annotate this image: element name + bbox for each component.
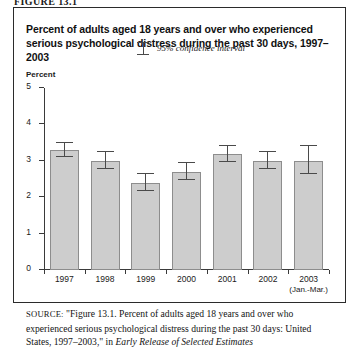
- error-bar-line: [267, 152, 268, 168]
- source-line-1: "Figure 13.1. Percent of adults aged 18 …: [66, 308, 293, 319]
- error-bar-cap-lower: [137, 190, 154, 191]
- error-bar-cap-lower: [300, 173, 317, 174]
- error-bar-cap-upper: [219, 145, 236, 146]
- error-bar-cap-lower: [219, 161, 236, 162]
- y-axis-tick-label: 5: [26, 81, 31, 91]
- bar: [172, 172, 201, 270]
- bar-group: [131, 88, 160, 270]
- bar: [50, 150, 79, 270]
- figure-frame: Percent of adults aged 18 years and over…: [13, 7, 346, 303]
- error-bar-cap-upper: [259, 151, 276, 152]
- bar: [213, 154, 242, 270]
- y-axis-tick-label: 4: [26, 117, 31, 127]
- error-bar-cap-upper: [97, 151, 114, 152]
- source-note: SOURCE: "Figure 13.1. Percent of adults …: [26, 307, 338, 349]
- bar: [253, 161, 282, 270]
- error-bar-line: [105, 152, 106, 168]
- error-bar-cap-upper: [137, 173, 154, 174]
- bar: [294, 161, 323, 270]
- bars-layer: [44, 88, 329, 270]
- error-bar-line: [186, 163, 187, 179]
- y-axis-tick-label: 1: [26, 227, 31, 237]
- bar: [91, 161, 120, 270]
- bar-group: [91, 88, 120, 270]
- bar: [131, 183, 160, 270]
- plot-area: 012345: [44, 88, 329, 270]
- error-bar-symbol-icon: [136, 41, 150, 55]
- error-bar-cap-lower: [56, 156, 73, 157]
- source-line-2: experienced serious psychological distre…: [26, 323, 283, 334]
- x-axis-tick: [329, 270, 330, 274]
- bar-group: [253, 88, 282, 270]
- y-axis-unit-label: Percent: [26, 70, 55, 79]
- x-axis-label: 2003(Jan.-Mar.): [288, 274, 329, 294]
- source-label: SOURCE:: [26, 309, 64, 319]
- legend: 95% confidence interval: [136, 41, 245, 55]
- bar-group: [213, 88, 242, 270]
- error-bar-cap-lower: [97, 168, 114, 169]
- error-bar-cap-lower: [178, 179, 195, 180]
- y-axis-tick-label: 2: [26, 190, 31, 200]
- bar-group: [294, 88, 323, 270]
- error-bar-cap-upper: [56, 142, 73, 143]
- error-bar-cap-upper: [300, 145, 317, 146]
- bar-group: [172, 88, 201, 270]
- x-axis-sublabel: (Jan.-Mar.): [288, 285, 329, 294]
- legend-label: 95% confidence interval: [157, 43, 245, 53]
- y-axis-tick-label: 3: [26, 154, 31, 164]
- error-bar-cap-upper: [178, 162, 195, 163]
- error-bar-line: [308, 146, 309, 174]
- source-publication-title: Early Release of Selected Estimates: [115, 336, 252, 347]
- x-axis-label: 2002: [248, 274, 289, 284]
- error-bar-cap-lower: [259, 168, 276, 169]
- x-axis-label: 1997: [44, 274, 85, 284]
- x-axis-label: 1999: [125, 274, 166, 284]
- x-axis-label: 2000: [166, 274, 207, 284]
- error-bar-line: [64, 143, 65, 157]
- x-axis-labels: 1997199819992000200120022003(Jan.-Mar.): [44, 274, 329, 304]
- error-bar-line: [227, 146, 228, 162]
- figure-number: FIGURE 13.1: [14, 0, 77, 7]
- y-axis-tick-label: 0: [26, 263, 31, 273]
- error-bar-line: [145, 174, 146, 191]
- bar-group: [50, 88, 79, 270]
- x-axis-label: 1998: [85, 274, 126, 284]
- x-axis-label: 2001: [207, 274, 248, 284]
